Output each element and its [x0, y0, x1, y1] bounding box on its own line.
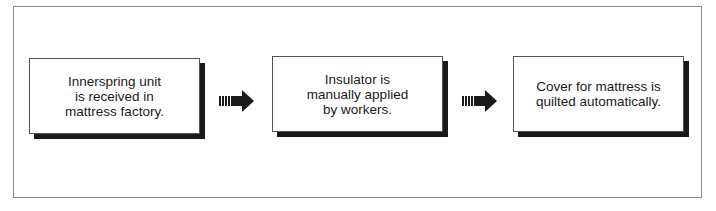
step-label: Innerspring unit is received in mattress…: [65, 74, 164, 119]
process-step-2: Insulator is manually applied by workers…: [272, 56, 443, 132]
process-step-1: Innerspring unit is received in mattress…: [29, 58, 200, 134]
step-label: Cover for mattress is quilted automatica…: [536, 79, 661, 109]
striped-arrow-right-icon: [462, 90, 498, 112]
step-label: Insulator is manually applied by workers…: [307, 72, 408, 117]
step-box: Cover for mattress is quilted automatica…: [513, 56, 684, 132]
process-step-3: Cover for mattress is quilted automatica…: [513, 56, 684, 132]
striped-arrow-right-icon: [219, 90, 255, 112]
step-box: Insulator is manually applied by workers…: [272, 56, 443, 132]
step-box: Innerspring unit is received in mattress…: [29, 58, 200, 134]
